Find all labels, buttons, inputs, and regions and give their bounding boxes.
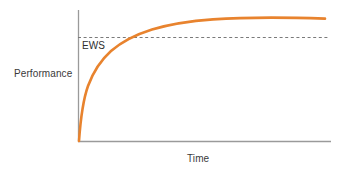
- performance-curve: [79, 18, 325, 141]
- performance-time-chart: Performance Time EWS: [0, 0, 344, 174]
- ews-threshold-label: EWS: [82, 40, 105, 51]
- x-axis-label: Time: [187, 153, 209, 164]
- y-axis-label: Performance: [14, 68, 72, 79]
- chart-canvas: [0, 0, 344, 174]
